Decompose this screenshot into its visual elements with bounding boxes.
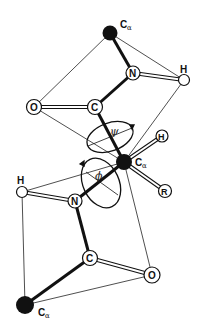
svg-text:R: R <box>161 187 168 197</box>
svg-text:H: H <box>17 175 24 186</box>
peptide-plane-outlines <box>22 33 184 305</box>
svg-text:N: N <box>71 196 78 207</box>
svg-text:C: C <box>86 253 93 264</box>
atom-h-top: H <box>179 64 190 86</box>
phi-label: ϕ <box>95 170 103 183</box>
svg-text:O: O <box>30 102 38 113</box>
atom-o-top: O <box>27 100 42 115</box>
atom-r-mid: R <box>159 185 172 198</box>
svg-text:H: H <box>158 132 165 142</box>
svg-text:O: O <box>148 270 156 281</box>
atom-h-mid: H <box>156 130 168 142</box>
peptide-diagram: ψ ϕ C α N H O C C α H R H N <box>0 0 203 336</box>
atom-c-bot: C <box>83 251 98 266</box>
atom-h-bot: H <box>17 175 28 198</box>
psi-label: ψ <box>110 125 119 138</box>
atom-o-bot: O <box>144 267 160 283</box>
svg-text:α: α <box>45 312 50 320</box>
atom-n-top: N <box>126 66 140 80</box>
svg-text:α: α <box>142 162 147 170</box>
svg-text:H: H <box>180 64 187 75</box>
svg-text:α: α <box>127 24 132 32</box>
atom-n-bot: N <box>68 194 82 208</box>
svg-text:N: N <box>129 68 136 79</box>
svg-text:C: C <box>91 102 98 113</box>
atom-c-top: C <box>88 100 103 115</box>
double-bonds <box>22 73 184 275</box>
